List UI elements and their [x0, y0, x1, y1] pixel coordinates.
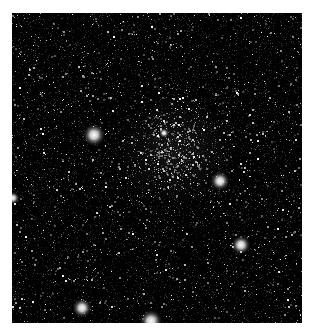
star-field-canvas [12, 13, 302, 323]
star-field-image: Star cluster in dense star field [12, 13, 302, 323]
